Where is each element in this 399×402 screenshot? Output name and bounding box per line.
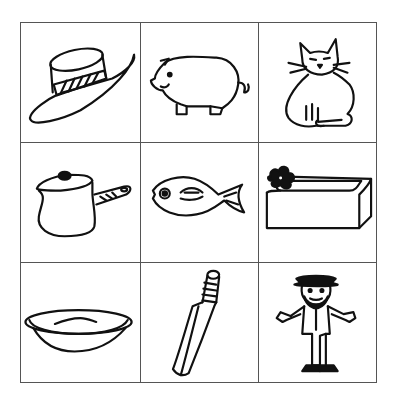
pig-icon xyxy=(141,23,258,142)
picture-grid: hat pig cat pot xyxy=(20,22,377,383)
cell-bat: bat xyxy=(141,263,259,382)
cell-dish: dish xyxy=(21,263,141,382)
fish-icon xyxy=(141,143,258,262)
cell-pot: pot xyxy=(21,143,141,263)
pot-icon xyxy=(21,143,140,262)
cell-cat: cat xyxy=(259,23,376,143)
cat-icon xyxy=(259,23,376,142)
cell-man: man xyxy=(259,263,376,382)
dish-icon xyxy=(21,263,140,382)
cell-hat: hat xyxy=(21,23,141,143)
cell-bath: bath xyxy=(259,143,376,263)
bath-icon xyxy=(259,143,376,262)
hat-icon xyxy=(21,23,140,142)
man-icon xyxy=(259,263,376,382)
cell-pig: pig xyxy=(141,23,259,143)
cricket-bat-icon xyxy=(141,263,258,382)
cell-fish: fish xyxy=(141,143,259,263)
